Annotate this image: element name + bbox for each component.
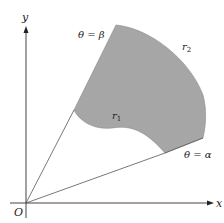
theta-beta-label: θ = β <box>78 29 105 40</box>
outer-curve-label-sub: 2 <box>187 46 191 54</box>
theta-alpha-label: θ = α <box>184 149 212 160</box>
inner-curve-label-sub: 1 <box>117 115 121 123</box>
ray-theta-beta <box>26 110 74 203</box>
ray-theta-alpha <box>26 153 165 203</box>
y-axis-arrow-icon <box>24 26 29 33</box>
y-axis-label: y <box>21 11 29 24</box>
polar-region-diagram: y x O θ = β θ = α r2 r1 <box>0 0 224 223</box>
outer-curve-label: r2 <box>182 41 191 54</box>
x-axis-arrow-icon <box>207 201 214 206</box>
x-axis-label: x <box>216 197 223 210</box>
origin-label: O <box>14 206 23 219</box>
